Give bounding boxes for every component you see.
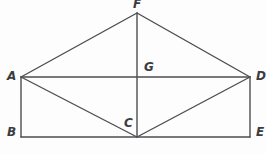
geometry-canvas [0, 0, 266, 154]
segment-a-c [21, 77, 137, 137]
segment-a-f [21, 13, 137, 77]
vertex-label-b: B [7, 126, 16, 138]
vertex-label-f: F [133, 0, 141, 10]
vertex-label-e: E [256, 126, 264, 138]
vertex-label-c: C [124, 117, 133, 129]
vertex-label-d: D [256, 70, 266, 82]
segment-c-d [137, 77, 250, 137]
edge-group [21, 13, 250, 137]
vertex-label-a: A [7, 70, 16, 82]
vertex-label-g: G [144, 61, 154, 73]
geometry-diagram: A B C D E F G [0, 0, 266, 154]
